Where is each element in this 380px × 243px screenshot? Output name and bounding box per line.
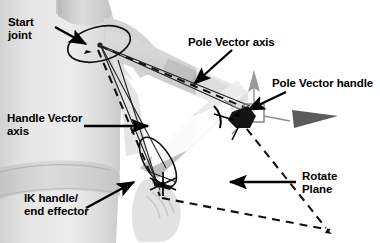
label-pole-vector-handle: Pole Vector handle (272, 77, 373, 90)
label-pole-vector-axis: Pole Vector axis (188, 36, 275, 49)
ik-handle-dot (161, 182, 165, 186)
joint-center-dot (97, 42, 102, 47)
label-ik-handle-end-effector: IK handle/ end effector (24, 192, 89, 217)
label-rotate-plane: Rotate Plane (302, 170, 337, 195)
label-handle-vector-axis: Handle Vector axis (7, 112, 82, 137)
label-start-joint: Start joint (8, 16, 34, 41)
ik-rotate-plane-figure: Start joint Handle Vector axis IK handle… (0, 0, 380, 243)
